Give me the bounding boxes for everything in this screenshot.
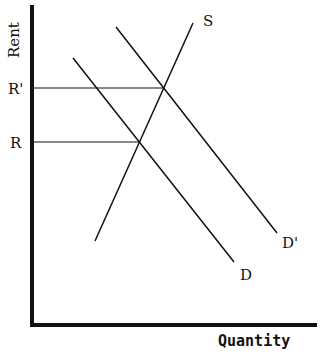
supply-curve-label: S (203, 12, 213, 30)
supply-curve (95, 23, 193, 241)
y-axis-label: Rent (5, 22, 23, 58)
demand-curve-label: D (240, 266, 252, 284)
price-label-r-prime: R' (8, 80, 23, 98)
x-axis-label: Quantity (218, 332, 290, 350)
price-label-r: R (10, 134, 22, 152)
shifted-demand-curve-label: D' (282, 234, 298, 252)
supply-demand-diagram: Rent Quantity R' R S D D' (0, 0, 321, 358)
shifted-demand-curve (116, 27, 277, 233)
